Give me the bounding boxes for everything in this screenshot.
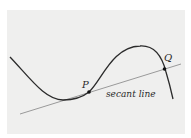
point-p-label: P [81,79,89,90]
secant-line-label: secant line [106,89,156,99]
point-p-marker [87,90,91,94]
point-q-marker [163,67,167,71]
secant-line [20,64,181,114]
point-q-label: Q [164,52,172,63]
secant-diagram: P Q secant line [0,0,191,138]
